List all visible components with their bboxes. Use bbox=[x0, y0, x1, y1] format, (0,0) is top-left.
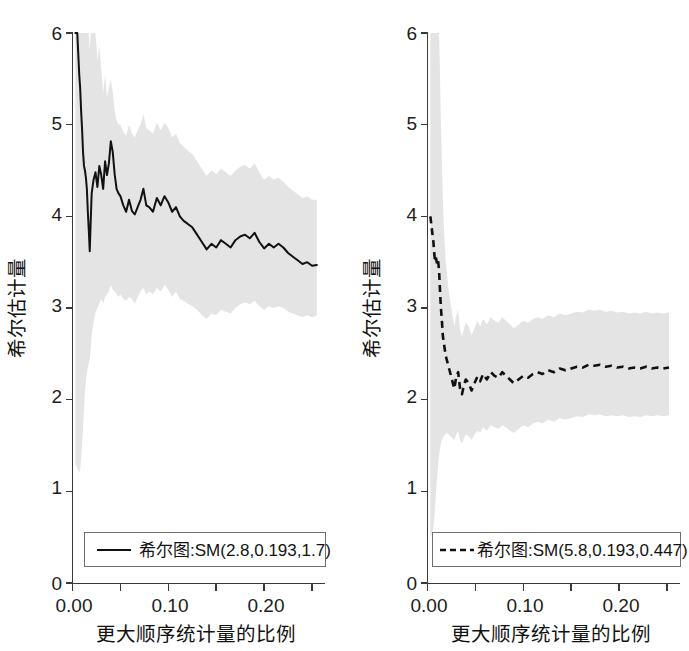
left-x-axis-title: 更大顺序统计量的比例 bbox=[96, 623, 296, 645]
hill-plot-figure: 6 5 4 3 2 1 0 0.00 0.10 0.20 更大顺序统计量的比例 … bbox=[0, 0, 689, 651]
y-tick-3: 3 bbox=[406, 295, 417, 316]
y-tick-6: 6 bbox=[51, 23, 62, 44]
y-tick-5: 5 bbox=[51, 113, 62, 134]
panel-right: 6 5 4 3 2 1 0 0.00 0.10 0.20 更大顺序统计量的比例 … bbox=[344, 0, 689, 651]
left-confidence-band bbox=[75, 33, 316, 473]
left-x-tick-labels: 0.00 0.10 0.20 bbox=[56, 595, 285, 616]
right-y-tick-labels: 6 5 4 3 2 1 0 bbox=[406, 23, 417, 594]
y-tick-4: 4 bbox=[51, 204, 62, 225]
right-legend[interactable]: 希尔图:SM(5.8,0.193,0.447) bbox=[433, 533, 688, 567]
x-tick-0.10: 0.10 bbox=[507, 595, 544, 616]
right-x-axis bbox=[428, 583, 681, 591]
x-tick-0.10: 0.10 bbox=[152, 595, 189, 616]
left-legend-label: 希尔图:SM(2.8,0.193,1.7) bbox=[139, 541, 331, 560]
x-tick-0.20: 0.20 bbox=[248, 595, 285, 616]
y-tick-2: 2 bbox=[51, 386, 62, 407]
y-tick-1: 1 bbox=[51, 477, 62, 498]
right-legend-label: 希尔图:SM(5.8,0.193,0.447) bbox=[477, 541, 688, 560]
left-y-tick-labels: 6 5 4 3 2 1 0 bbox=[51, 23, 62, 594]
y-tick-3: 3 bbox=[51, 295, 62, 316]
left-y-axis-title: 希尔估计量 bbox=[6, 258, 28, 358]
y-tick-2: 2 bbox=[406, 386, 417, 407]
left-y-axis bbox=[66, 33, 73, 583]
panel-left: 6 5 4 3 2 1 0 0.00 0.10 0.20 更大顺序统计量的比例 … bbox=[0, 0, 345, 651]
x-tick-0.00: 0.00 bbox=[56, 595, 93, 616]
left-plot-svg: 6 5 4 3 2 1 0 0.00 0.10 0.20 更大顺序统计量的比例 … bbox=[0, 0, 345, 651]
y-tick-1: 1 bbox=[406, 477, 417, 498]
right-confidence-band bbox=[430, 33, 669, 537]
y-tick-5: 5 bbox=[406, 113, 417, 134]
y-tick-0: 0 bbox=[51, 573, 62, 594]
left-legend[interactable]: 希尔图:SM(2.8,0.193,1.7) bbox=[85, 533, 331, 567]
x-tick-0.20: 0.20 bbox=[603, 595, 640, 616]
y-tick-6: 6 bbox=[406, 23, 417, 44]
left-x-axis bbox=[73, 583, 326, 591]
y-tick-0: 0 bbox=[406, 573, 417, 594]
right-y-axis-title: 希尔估计量 bbox=[361, 258, 383, 358]
y-tick-4: 4 bbox=[406, 204, 417, 225]
x-tick-0.00: 0.00 bbox=[411, 595, 448, 616]
right-plot-svg: 6 5 4 3 2 1 0 0.00 0.10 0.20 更大顺序统计量的比例 … bbox=[344, 0, 689, 651]
right-x-tick-labels: 0.00 0.10 0.20 bbox=[411, 595, 640, 616]
right-x-axis-title: 更大顺序统计量的比例 bbox=[451, 623, 651, 645]
right-y-axis bbox=[421, 33, 428, 583]
